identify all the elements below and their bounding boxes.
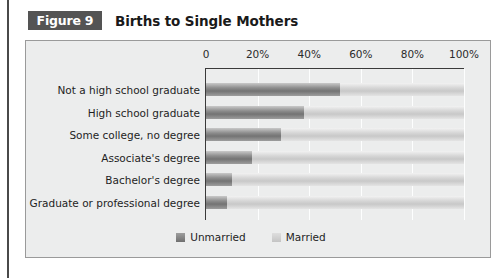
category-label: Bachelor's degree: [18, 169, 200, 191]
stacked-bar: [206, 83, 464, 96]
bar-segment-married: [252, 151, 464, 164]
bar-segment-unmarried: [206, 173, 232, 186]
legend-item: Unmarried: [176, 231, 246, 243]
bar-segment-married: [304, 106, 464, 119]
bar-segment-married: [227, 196, 464, 209]
legend-item: Married: [272, 231, 326, 243]
chart-row: Graduate or professional degree: [0, 192, 502, 214]
bar-segment-unmarried: [206, 128, 281, 141]
category-label: Associate's degree: [18, 147, 200, 169]
stacked-bar: [206, 196, 464, 209]
bar-segment-unmarried: [206, 83, 340, 96]
chart-row: Not a high school graduate: [0, 79, 502, 101]
figure-screenshot: Figure 9 Births to Single Mothers 020%40…: [0, 0, 502, 278]
bar-segment-unmarried: [206, 196, 227, 209]
category-label: Graduate or professional degree: [18, 192, 200, 214]
chart-row: Bachelor's degree: [0, 169, 502, 191]
dark-gray-swatch: [176, 233, 185, 242]
legend-label: Married: [286, 231, 326, 243]
stacked-bar: [206, 151, 464, 164]
category-label: Some college, no degree: [18, 124, 200, 146]
bar-segment-married: [232, 173, 464, 186]
chart-legend: UnmarriedMarried: [0, 229, 502, 245]
legend-label: Unmarried: [190, 231, 246, 243]
chart-row: High school graduate: [0, 102, 502, 124]
stacked-bar: [206, 173, 464, 186]
stacked-bar: [206, 128, 464, 141]
light-gray-swatch: [272, 233, 281, 242]
bar-segment-married: [281, 128, 464, 141]
chart-row: Some college, no degree: [0, 124, 502, 146]
bar-segment-unmarried: [206, 151, 252, 164]
chart-row: Associate's degree: [0, 147, 502, 169]
bar-segment-married: [340, 83, 464, 96]
stacked-bar: [206, 106, 464, 119]
category-label: High school graduate: [18, 102, 200, 124]
category-label: Not a high school graduate: [18, 79, 200, 101]
bar-segment-unmarried: [206, 106, 304, 119]
